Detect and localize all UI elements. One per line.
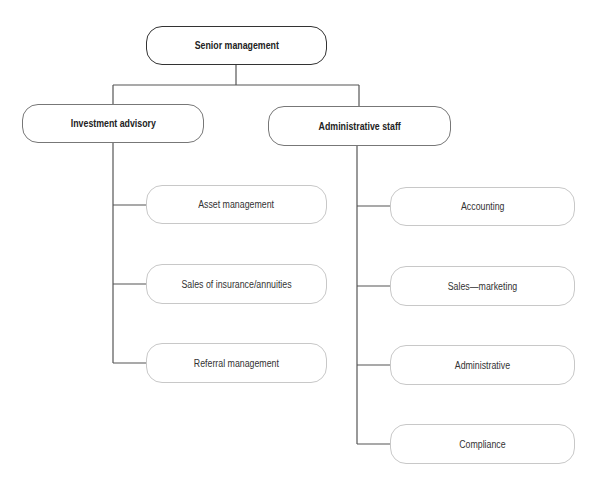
node-referral-management: Referral management xyxy=(146,343,327,383)
node-investment-advisory: Investment advisory xyxy=(22,104,204,143)
node-label: Investment advisory xyxy=(70,118,155,129)
node-label: Asset management xyxy=(199,199,275,210)
node-label: Senior management xyxy=(194,40,278,51)
node-label: Referral management xyxy=(194,358,279,369)
node-sales-marketing: Sales—marketing xyxy=(390,266,575,306)
node-administrative: Administrative xyxy=(390,345,575,385)
node-label: Administrative xyxy=(455,360,510,371)
node-sales-insurance-annuities: Sales of insurance/annuities xyxy=(146,264,327,304)
node-label: Sales of insurance/annuities xyxy=(181,279,291,290)
connector-lines xyxy=(0,0,601,488)
node-asset-management: Asset management xyxy=(146,185,327,224)
node-label: Accounting xyxy=(461,201,505,212)
node-compliance: Compliance xyxy=(390,424,575,464)
node-label: Administrative staff xyxy=(318,121,400,132)
node-administrative-staff: Administrative staff xyxy=(268,106,451,146)
node-label: Sales—marketing xyxy=(448,281,517,292)
node-senior-management: Senior management xyxy=(146,26,327,65)
node-accounting: Accounting xyxy=(390,187,575,226)
node-label: Compliance xyxy=(459,439,505,450)
